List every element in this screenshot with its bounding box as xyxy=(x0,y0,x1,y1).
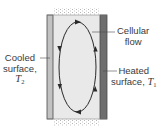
heated-surface-line2: surface, T1 xyxy=(111,77,157,91)
cellular-flow-line2: flow xyxy=(117,37,149,48)
cellular-flow-label: Cellular flow xyxy=(117,26,149,47)
cellular-flow-line1: Cellular xyxy=(117,26,149,37)
heated-surface-text: surface, xyxy=(111,76,147,87)
enclosure-diagram: Cellular flow Heated surface, T1 Cooled … xyxy=(0,0,164,134)
cooled-surface-line1: Cooled xyxy=(3,53,37,64)
cooled-surface-line3: T2 xyxy=(3,74,37,88)
heated-temperature-symbol: T1 xyxy=(147,76,156,87)
cooled-subscript: 2 xyxy=(21,78,24,85)
heated-wall xyxy=(100,15,107,119)
heated-surface-label: Heated surface, T1 xyxy=(111,66,157,90)
heated-subscript: 1 xyxy=(153,81,156,88)
cooled-temperature-symbol: T2 xyxy=(15,73,24,84)
cooled-wall xyxy=(47,15,53,119)
bottom-insulation xyxy=(53,119,100,126)
top-insulation xyxy=(53,8,100,15)
cooled-surface-label: Cooled surface, T2 xyxy=(3,53,37,88)
fluid-region xyxy=(53,15,100,119)
